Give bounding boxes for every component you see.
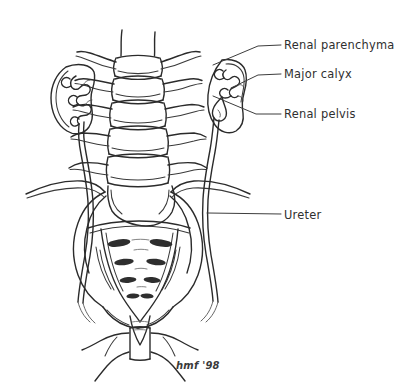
label-renal-pelvis: Renal pelvis [284,107,356,121]
label-renal-parenchyma: Renal parenchyma [284,38,395,52]
anatomy-figure: Renal parenchyma Major calyx Renal pelvi… [0,0,402,389]
anatomy-illustration-canvas: Renal parenchyma Major calyx Renal pelvi… [0,0,402,389]
figure-background [0,0,402,389]
artist-signature: hmf '98 [176,360,220,371]
label-ureter: Ureter [284,208,322,222]
label-major-calyx: Major calyx [284,67,352,81]
